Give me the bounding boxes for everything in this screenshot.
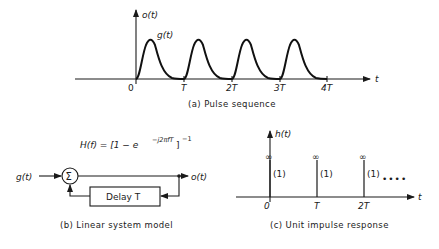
- c-x-axis-label: t: [418, 192, 422, 202]
- impulse-2T: ∞ (1) 2T: [358, 152, 380, 211]
- c-tick-T: T: [314, 201, 321, 211]
- pulse-2: [184, 40, 232, 79]
- formula-main: H(f) = [1 − e: [80, 140, 139, 150]
- c-caption: (c) Unit impulse response: [270, 220, 389, 230]
- b-output-label: o(t): [191, 172, 207, 182]
- formula-power: −1: [182, 135, 192, 143]
- impulse-weight: (1): [367, 169, 380, 179]
- c-y-axis-label: h(t): [275, 129, 291, 139]
- infinity-mark: ∞: [265, 152, 273, 162]
- summer-symbol: Σ: [66, 171, 72, 182]
- b-caption: (b) Linear system model: [60, 220, 173, 230]
- infinity-mark: ∞: [359, 152, 367, 162]
- c-tick-0: 0: [264, 201, 270, 211]
- panel-b-linear-system: H(f) = [1 − e −j2πfT ] −1 g(t) Σ o(t) De…: [16, 135, 207, 230]
- continuation-dots: ••••: [382, 174, 407, 184]
- pulse-4: [280, 40, 327, 79]
- a-tick-4T: 4T: [321, 83, 334, 93]
- a-y-axis-label: o(t): [142, 10, 158, 20]
- feedback-to-delay: [161, 176, 179, 196]
- transfer-function-formula: H(f) = [1 − e −j2πfT ] −1: [80, 135, 192, 150]
- infinity-mark: ∞: [312, 152, 320, 162]
- a-curve-label: g(t): [157, 30, 173, 40]
- figure-canvas: o(t) t 0 T 2T 3T 4T g(t) (a) Pulse seque…: [0, 0, 439, 249]
- formula-exponent: −j2πfT: [152, 136, 175, 144]
- a-tick-0: 0: [128, 83, 134, 93]
- a-tick-2T: 2T: [226, 83, 239, 93]
- formula-close: ]: [176, 140, 180, 150]
- panel-a-pulse-sequence: o(t) t 0 T 2T 3T 4T g(t) (a) Pulse seque…: [75, 10, 379, 109]
- impulse-weight: (1): [320, 169, 333, 179]
- impulse-weight: (1): [273, 169, 286, 179]
- pulse-1: [136, 40, 184, 79]
- delay-label: Delay T: [106, 192, 141, 202]
- b-input-label: g(t): [16, 172, 32, 182]
- panel-c-impulse-response: h(t) t ∞ (1) 0 ∞ (1) T ∞ (1) 2T •••• (c)…: [236, 129, 422, 230]
- impulse-0: ∞ (1) 0: [264, 152, 286, 211]
- pulse-3: [232, 40, 280, 79]
- impulse-T: ∞ (1) T: [312, 152, 333, 211]
- feedback-to-summer: [70, 185, 90, 196]
- a-x-axis-label: t: [375, 74, 379, 84]
- a-tick-T: T: [181, 83, 188, 93]
- a-caption: (a) Pulse sequence: [188, 99, 276, 109]
- c-tick-2T: 2T: [358, 201, 371, 211]
- a-tick-3T: 3T: [274, 83, 287, 93]
- a-pulses: [136, 40, 327, 79]
